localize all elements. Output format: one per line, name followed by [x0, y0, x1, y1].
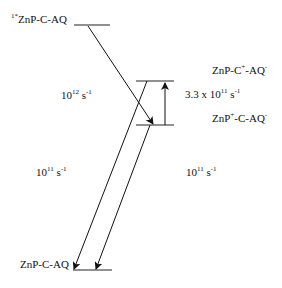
label-text: ZnP-C-AQ: [18, 13, 67, 25]
t2: -AQ: [245, 64, 265, 76]
ue: -1: [86, 88, 92, 96]
prefix: 1*: [11, 12, 18, 20]
e: 11: [221, 87, 228, 95]
forward-rate-label: 1012 s-1: [61, 88, 92, 101]
u: s: [204, 166, 211, 178]
ue: -1: [235, 87, 241, 95]
s2: -: [265, 111, 267, 119]
e: 11: [197, 165, 204, 173]
recomb-left-rate-label: 1011 s-1: [36, 165, 67, 178]
ct-upper-label: ZnP-C+-AQ-: [212, 63, 267, 76]
recomb-right-rate-label: 1011 s-1: [186, 165, 217, 178]
t1: ZnP: [212, 112, 230, 124]
b: 3.3 x 10: [185, 88, 221, 100]
energy-level-diagram: 1*ZnP-C-AQ ZnP-C+-AQ- ZnP+-C-AQ- ZnP-C-A…: [0, 0, 282, 288]
s2: -: [265, 63, 267, 71]
ue: -1: [211, 165, 217, 173]
b: 10: [36, 166, 47, 178]
e: 12: [72, 88, 79, 96]
shift-rate-label: 3.3 x 1011 s-1: [185, 87, 240, 100]
forward-et-arrow: [88, 26, 153, 124]
excited-state-label: 1*ZnP-C-AQ: [11, 12, 67, 25]
u: s: [54, 166, 61, 178]
b: 10: [186, 166, 197, 178]
ue: -1: [61, 165, 67, 173]
recomb-right-arrow: [96, 125, 150, 269]
b: 10: [61, 89, 72, 101]
ground-state-label: ZnP-C-AQ: [20, 258, 69, 270]
u: s: [79, 89, 86, 101]
u: s: [228, 88, 235, 100]
ct-lower-label: ZnP+-C-AQ-: [212, 111, 267, 124]
diagram-lines: [0, 0, 282, 288]
e: 11: [47, 165, 54, 173]
recomb-left-arrow: [74, 81, 147, 269]
t2: -C-AQ: [234, 112, 265, 124]
t1: ZnP-C: [212, 64, 241, 76]
